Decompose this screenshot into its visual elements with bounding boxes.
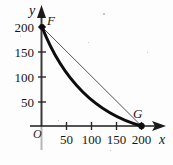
y-tick-label-50: 50 — [2, 96, 34, 109]
y-axis-label: y — [29, 4, 35, 18]
scan-speck — [110, 150, 111, 151]
scan-speck — [20, 36, 21, 37]
point-label-f: F — [47, 14, 55, 27]
figure-canvas: 200 150 100 50 50 100 150 200 y x O F G — [0, 0, 173, 165]
y-tick-label-150: 150 — [2, 46, 34, 59]
scan-speck — [103, 13, 105, 15]
y-axis-arrowhead — [37, 5, 46, 18]
origin-label: O — [33, 128, 42, 140]
chord-f-g — [42, 27, 142, 126]
point-marker-g — [138, 123, 144, 129]
x-axis-label: x — [159, 133, 165, 147]
y-tick-label-100: 100 — [2, 71, 34, 84]
scan-speck — [88, 42, 89, 43]
x-tick-label-200: 200 — [127, 133, 156, 146]
point-marker-f — [39, 24, 45, 30]
scan-speck — [58, 120, 59, 121]
point-label-g: G — [133, 107, 142, 120]
scan-speck — [147, 52, 148, 53]
y-tick-label-200: 200 — [2, 21, 34, 34]
